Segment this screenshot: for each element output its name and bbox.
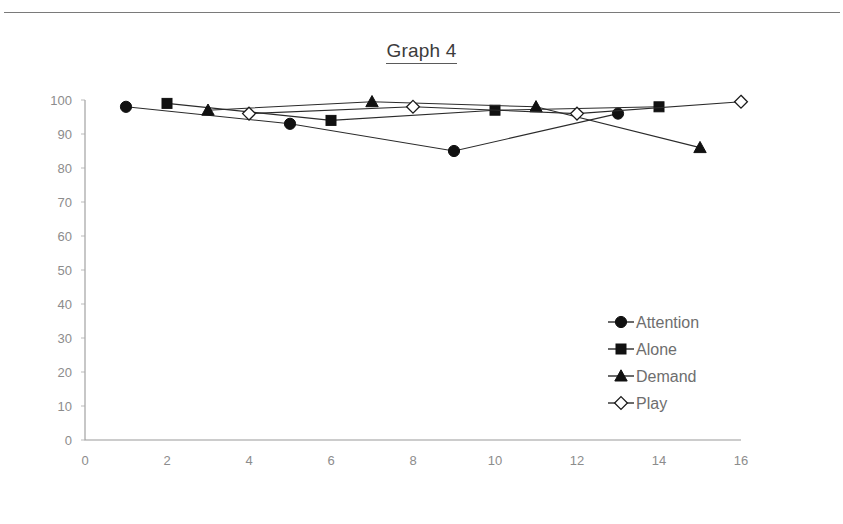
- marker-filled-square: [162, 98, 172, 108]
- marker-open-diamond: [615, 397, 628, 410]
- legend-entry-play[interactable]: Play: [608, 395, 667, 412]
- y-axis-tick-label: 100: [50, 93, 72, 108]
- y-axis-tick-label: 30: [58, 331, 72, 346]
- legend-label-attention: Attention: [636, 314, 699, 331]
- marker-filled-square: [326, 115, 336, 125]
- x-axis-tick-label: 0: [81, 453, 88, 468]
- marker-filled-square: [654, 102, 664, 112]
- chart-legend: AttentionAloneDemandPlay: [608, 314, 699, 412]
- marker-filled-circle: [612, 108, 623, 119]
- y-axis-tick-labels: 0102030405060708090100: [50, 93, 85, 448]
- y-axis-tick-label: 90: [58, 127, 72, 142]
- marker-filled-circle: [448, 145, 459, 156]
- legend-entry-demand[interactable]: Demand: [608, 368, 696, 385]
- series-line-attention: [126, 107, 618, 151]
- y-axis-tick-label: 20: [58, 365, 72, 380]
- x-axis-tick-labels: 0246810121416: [81, 453, 748, 468]
- y-axis-tick-label: 60: [58, 229, 72, 244]
- x-axis-tick-label: 12: [570, 453, 584, 468]
- x-axis-tick-label: 14: [652, 453, 666, 468]
- y-axis-tick-label: 80: [58, 161, 72, 176]
- marker-filled-circle: [284, 118, 295, 129]
- page-canvas: Graph 4 0102030405060708090100 024681012…: [0, 0, 843, 524]
- marker-filled-circle: [120, 101, 131, 112]
- line-chart: 0102030405060708090100 0246810121416 Att…: [0, 0, 843, 524]
- legend-label-alone: Alone: [636, 341, 677, 358]
- marker-open-diamond: [243, 107, 256, 120]
- y-axis-tick-label: 0: [65, 433, 72, 448]
- marker-filled-circle: [615, 316, 626, 327]
- legend-entry-alone[interactable]: Alone: [608, 341, 677, 358]
- series-layer: [120, 95, 747, 156]
- legend-label-demand: Demand: [636, 368, 696, 385]
- x-axis-tick-label: 4: [245, 453, 252, 468]
- marker-filled-triangle: [366, 96, 378, 107]
- x-axis-tick-label: 6: [327, 453, 334, 468]
- series-demand: [202, 96, 706, 153]
- x-axis-tick-label: 16: [734, 453, 748, 468]
- marker-open-diamond: [735, 95, 748, 108]
- y-axis-tick-label: 40: [58, 297, 72, 312]
- x-axis-tick-label: 8: [409, 453, 416, 468]
- marker-filled-square: [616, 344, 626, 354]
- chart-axes: [85, 100, 741, 440]
- x-axis-tick-label: 2: [163, 453, 170, 468]
- legend-label-play: Play: [636, 395, 667, 412]
- y-axis-tick-label: 50: [58, 263, 72, 278]
- y-axis-tick-label: 70: [58, 195, 72, 210]
- y-axis-tick-label: 10: [58, 399, 72, 414]
- x-axis-tick-label: 10: [488, 453, 502, 468]
- legend-entry-attention[interactable]: Attention: [608, 314, 699, 331]
